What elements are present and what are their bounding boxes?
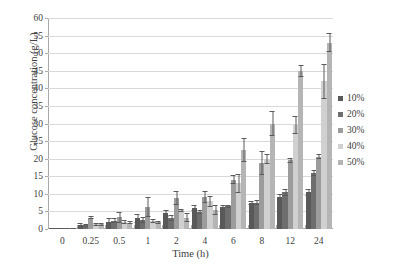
plot-area: 051015202530354045505560 00.250.51246812… xyxy=(48,18,333,229)
legend-item-40pct: 40% xyxy=(338,142,364,152)
error-bar-stem xyxy=(262,151,263,174)
bar-slot xyxy=(184,18,189,229)
error-bar-cap-bottom xyxy=(327,51,332,52)
error-bar-cap-bottom xyxy=(241,161,246,162)
error-bar xyxy=(184,213,189,222)
y-tick-mark xyxy=(45,229,48,230)
error-bar-cap-top xyxy=(327,33,332,34)
legend-swatch-icon xyxy=(338,128,343,133)
error-bar-cap-top xyxy=(156,221,161,222)
legend-swatch-icon xyxy=(338,96,343,101)
error-bar xyxy=(298,65,303,77)
x-tick-label: 1 xyxy=(145,236,150,246)
bar-slot xyxy=(327,18,332,229)
bar-chart: Glucose concentration (g/L) 051015202530… xyxy=(0,0,393,275)
error-bar-cap-bottom xyxy=(184,221,189,222)
legend-item-20pct: 20% xyxy=(338,110,364,120)
error-bar-stem xyxy=(176,191,177,204)
bar-50pct xyxy=(270,124,275,230)
error-bar xyxy=(241,138,246,163)
bar-slot xyxy=(99,18,104,229)
bar-slot xyxy=(213,18,218,229)
bar-50pct xyxy=(241,150,246,229)
error-bar-stem xyxy=(324,64,325,99)
bar-group: 12 xyxy=(276,18,305,229)
y-tick-label: 40 xyxy=(34,83,44,93)
y-tick-label: 15 xyxy=(34,171,44,181)
bar-50pct xyxy=(327,43,332,229)
bar-slot xyxy=(127,18,132,229)
error-bar-stem xyxy=(148,197,149,217)
error-bar-cap-bottom xyxy=(99,225,104,226)
legend-label: 20% xyxy=(347,110,364,120)
bar-slot xyxy=(298,18,303,229)
error-bar-stem xyxy=(329,33,330,52)
error-bar-cap-bottom xyxy=(127,223,132,224)
y-tick-label: 25 xyxy=(34,136,44,146)
error-bar-cap-top xyxy=(241,138,246,139)
legend: 10%20%30%40%50% xyxy=(338,94,364,168)
y-tick-label: 60 xyxy=(34,13,44,23)
bar-group: 6 xyxy=(219,18,248,229)
legend-swatch-icon xyxy=(338,160,343,165)
error-bar xyxy=(270,111,275,136)
x-tick-label: 8 xyxy=(259,236,264,246)
x-tick-label: 0.5 xyxy=(113,236,125,246)
legend-item-10pct: 10% xyxy=(338,94,364,104)
error-bar-stem xyxy=(272,111,273,136)
error-bar xyxy=(156,221,161,225)
legend-label: 30% xyxy=(347,126,364,136)
x-tick-label: 2 xyxy=(174,236,179,246)
legend-label: 50% xyxy=(347,158,364,168)
y-tick-label: 50 xyxy=(34,48,44,58)
bar-50pct xyxy=(99,224,104,229)
error-bar xyxy=(213,205,218,216)
error-bar-cap-top xyxy=(213,205,218,206)
y-tick-label: 20 xyxy=(34,154,44,164)
bar-50pct xyxy=(70,228,75,229)
x-tick-label: 12 xyxy=(286,236,296,246)
bar-50pct xyxy=(298,71,303,229)
bar-group: 0.25 xyxy=(77,18,106,229)
y-tick-label: 55 xyxy=(34,31,44,41)
error-bar-cap-bottom xyxy=(213,214,218,215)
bar-slot xyxy=(156,18,161,229)
error-bar-stem xyxy=(295,116,296,134)
bar-50pct xyxy=(213,210,218,229)
bar-group: 4 xyxy=(191,18,220,229)
x-axis-title: Time (h) xyxy=(48,248,333,259)
error-bar xyxy=(99,223,104,225)
y-tick-label: 0 xyxy=(38,224,43,234)
bar-50pct xyxy=(127,223,132,229)
error-bar xyxy=(70,228,75,229)
legend-item-50pct: 50% xyxy=(338,158,364,168)
y-tick-label: 35 xyxy=(34,101,44,111)
bar-group: 2 xyxy=(162,18,191,229)
bar-slot xyxy=(241,18,246,229)
legend-label: 10% xyxy=(347,94,364,104)
error-bar-stem xyxy=(244,138,245,163)
legend-swatch-icon xyxy=(338,112,343,117)
x-tick-label: 0.25 xyxy=(82,236,99,246)
legend-label: 40% xyxy=(347,142,364,152)
error-bar-cap-top xyxy=(270,111,275,112)
legend-item-30pct: 30% xyxy=(338,126,364,136)
bar-group: 0 xyxy=(48,18,77,229)
x-tick-label: 24 xyxy=(314,236,324,246)
error-bar xyxy=(127,221,132,225)
bar-group: 8 xyxy=(248,18,277,229)
bar-group: 24 xyxy=(305,18,334,229)
y-tick-label: 30 xyxy=(34,119,44,129)
error-bar-cap-top xyxy=(298,65,303,66)
y-tick-label: 5 xyxy=(38,206,43,216)
y-tick-label: 45 xyxy=(34,66,44,76)
bar-groups: 00.250.5124681224 xyxy=(48,18,333,229)
error-bar-cap-bottom xyxy=(156,223,161,224)
legend-swatch-icon xyxy=(338,144,343,149)
error-bar-cap-bottom xyxy=(270,135,275,136)
bar-group: 1 xyxy=(134,18,163,229)
x-tick-label: 0 xyxy=(60,236,65,246)
bar-50pct xyxy=(184,218,189,229)
x-tick-label: 4 xyxy=(202,236,207,246)
error-bar-cap-bottom xyxy=(70,228,75,229)
